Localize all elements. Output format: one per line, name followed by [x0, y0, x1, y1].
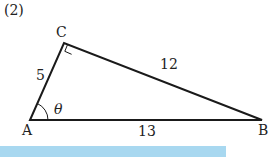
angle-theta-arc	[37, 104, 48, 121]
side-ac-length: 5	[36, 68, 45, 82]
vertex-c-label: C	[56, 25, 67, 39]
angle-theta-label: θ	[54, 102, 62, 116]
vertex-a-label: A	[22, 123, 32, 137]
vertex-b-label: B	[258, 123, 268, 137]
side-ab-length: 13	[138, 124, 156, 138]
highlight-bar	[0, 146, 226, 157]
side-cb-length: 12	[160, 57, 178, 71]
triangle-abc	[30, 43, 262, 120]
